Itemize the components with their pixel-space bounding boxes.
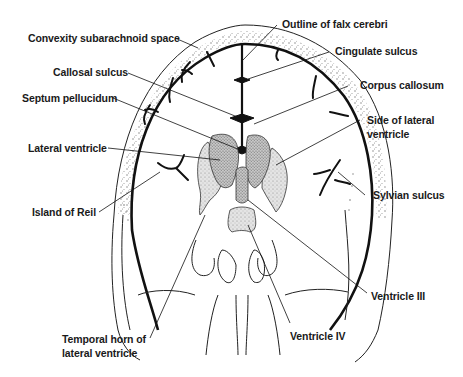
label-corpus-callosum: Corpus callosum xyxy=(360,79,444,92)
label-callosal-sulcus: Callosal sulcus xyxy=(53,66,128,79)
label-side-of-lateral-ventricle-line2: ventricle xyxy=(367,128,409,141)
label-cingulate-sulcus: Cingulate sulcus xyxy=(335,45,417,58)
label-temporal-horn-line1: Temporal horn of xyxy=(62,333,146,346)
label-ventricle-iii: Ventricle III xyxy=(371,290,425,303)
label-outline-of-falx-cerebri: Outline of falx cerebri xyxy=(282,18,388,31)
skull-outline xyxy=(112,25,393,362)
label-convexity-subarachnoid-space: Convexity subarachnoid space xyxy=(28,32,180,45)
convexity-subarachnoid-space-band xyxy=(118,31,386,218)
ventricle-iii-shape xyxy=(236,167,248,203)
ventricle-iv-shape xyxy=(228,207,256,232)
label-septum-pellucidum: Septum pellucidum xyxy=(22,92,117,105)
label-sylvian-sulcus: Sylvian sulcus xyxy=(373,189,445,202)
label-ventricle-iv: Ventricle IV xyxy=(290,330,345,343)
label-temporal-horn-line2: lateral ventricle xyxy=(62,347,137,360)
label-side-of-lateral-ventricle-line1: Side of lateral xyxy=(367,114,434,127)
label-lateral-ventricle: Lateral ventricle xyxy=(28,142,107,155)
label-island-of-reil: Island of Reil xyxy=(32,206,96,219)
